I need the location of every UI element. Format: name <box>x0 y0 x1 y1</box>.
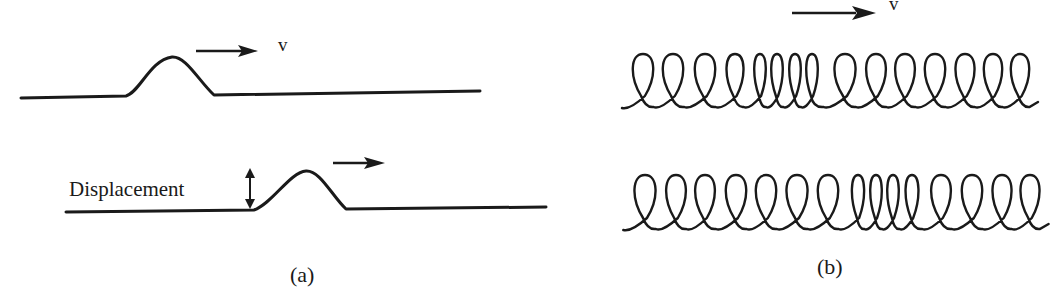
velocity-label: v <box>278 34 288 56</box>
spring-coil <box>622 54 1038 108</box>
caption-a: (a) <box>290 262 314 288</box>
wave-figure <box>0 0 1061 296</box>
panel-a-top-string <box>21 57 480 98</box>
panel-b-top-spring <box>622 54 1038 108</box>
velocity-label: v <box>889 0 899 15</box>
propagation-arrow-icon <box>333 157 385 169</box>
displacement-label: Displacement <box>69 177 184 202</box>
velocity-arrow-icon <box>792 6 876 20</box>
displacement-double-arrow-icon <box>245 168 255 209</box>
spring-coil <box>623 175 1048 230</box>
velocity-arrow-icon <box>196 45 258 57</box>
caption-b: (b) <box>817 254 843 280</box>
panel-b-bottom-spring <box>623 175 1048 230</box>
